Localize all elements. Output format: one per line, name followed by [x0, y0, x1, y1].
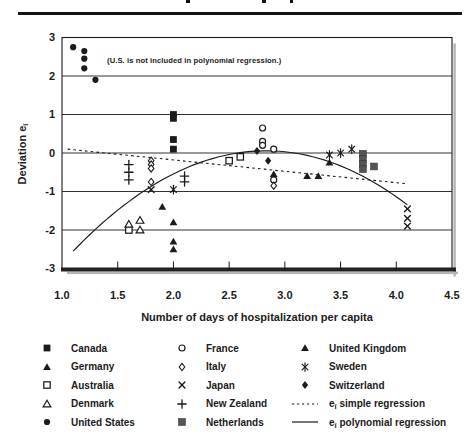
plus-marker-icon — [180, 178, 188, 186]
open-diamond-marker-icon — [271, 182, 277, 189]
simple-regression-legend-marker — [292, 397, 318, 411]
open-triangle-marker-icon — [136, 226, 144, 233]
legend-column: FranceItalyJapanNew ZealandNetherlands — [169, 339, 267, 432]
filled-circle-marker-icon — [70, 44, 76, 50]
legend-item-sweden: Sweden — [292, 358, 446, 377]
open-square-marker-icon — [237, 154, 243, 160]
x-tick-label: 3.0 — [277, 289, 292, 301]
series-canada — [170, 111, 177, 152]
x-cross-marker-icon — [179, 382, 185, 388]
germany-legend-marker — [34, 360, 60, 374]
gray-square-marker-icon — [371, 163, 378, 170]
plus-marker-icon — [178, 400, 186, 408]
filled-triangle-marker-icon — [170, 238, 178, 245]
scatter-chart: 1.01.52.02.53.03.54.04.53210-1-2-3 — [0, 0, 475, 336]
filled-diamond-marker-icon — [302, 381, 308, 389]
x-cross-marker-icon — [405, 223, 411, 229]
filled-circle-marker-icon — [92, 77, 98, 83]
y-tick-label: 3 — [49, 31, 55, 43]
open-circle-marker-icon — [179, 345, 185, 351]
legend-label: eî simple regression — [329, 398, 425, 409]
switzerland-legend-marker — [292, 378, 318, 392]
france-legend-marker — [169, 341, 195, 355]
new-zealand-legend-marker — [169, 397, 195, 411]
chart-note: (U.S. is not included in polynomial regr… — [107, 56, 281, 65]
open-square-marker-icon — [226, 158, 232, 164]
filled-triangle-marker-icon — [314, 172, 322, 179]
x-tick-label: 2.5 — [221, 289, 236, 301]
filled-square-marker-icon — [170, 146, 177, 153]
filled-triangle-marker-icon — [170, 245, 178, 252]
open-square-marker-icon — [44, 382, 50, 388]
legend-item-united-states: United States — [34, 413, 135, 432]
australia-legend-marker — [34, 378, 60, 392]
legend-column: United KingdomSwedenSwitzerlandeî simple… — [292, 339, 446, 432]
filled-circle-marker-icon — [44, 419, 50, 425]
x-axis-title: Number of days of hospitalization per ca… — [107, 311, 407, 323]
open-triangle-marker-icon — [43, 400, 51, 407]
polynomial-regression-legend-marker — [292, 415, 318, 429]
legend-label: Germany — [71, 361, 114, 372]
legend-item-netherlands: Netherlands — [169, 413, 267, 432]
filled-square-marker-icon — [170, 136, 177, 143]
legend-item-denmark: Denmark — [34, 395, 135, 414]
united-kingdom-legend-marker — [292, 341, 318, 355]
legend-item-italy: Italy — [169, 358, 267, 377]
legend-label: Italy — [206, 361, 226, 372]
x-tick-label: 1.5 — [110, 289, 125, 301]
filled-diamond-marker-icon — [254, 147, 260, 155]
x-tick-label: 1.0 — [54, 289, 69, 301]
x-tick-label: 2.0 — [166, 289, 181, 301]
legend-label: Switzerland — [329, 380, 385, 391]
gray-square-marker-icon — [359, 166, 366, 173]
y-axis-title: Deviation eî — [16, 93, 28, 215]
polynomial-regression-curve — [73, 151, 407, 251]
filled-diamond-marker-icon — [265, 157, 271, 165]
legend-label: Japan — [206, 380, 235, 391]
y-tick-label: 1 — [49, 108, 55, 120]
y-tick-label: -3 — [45, 262, 55, 274]
legend-item-japan: Japan — [169, 376, 267, 395]
legend-label: Netherlands — [206, 417, 264, 428]
filled-circle-marker-icon — [81, 65, 87, 71]
legend-label: eî polynomial regression — [329, 417, 446, 428]
open-triangle-marker-icon — [136, 217, 144, 224]
legend-label: United Kingdom — [329, 343, 406, 354]
filled-triangle-marker-icon — [270, 170, 278, 177]
star-marker-icon — [302, 362, 308, 371]
series-united-states — [70, 44, 98, 83]
legend-item-australia: Australia — [34, 376, 135, 395]
x-tick-label: 3.5 — [333, 289, 348, 301]
star-marker-icon — [349, 145, 355, 154]
y-tick-label: 0 — [49, 147, 55, 159]
open-square-marker-icon — [126, 227, 132, 233]
chart-legend: CanadaGermanyAustraliaDenmarkUnited Stat… — [0, 339, 475, 436]
x-tick-label: 4.5 — [444, 289, 459, 301]
plus-marker-icon — [125, 176, 133, 184]
legend-label: Canada — [71, 343, 107, 354]
filled-triangle-marker-icon — [301, 344, 309, 351]
filled-square-marker-icon — [170, 115, 177, 122]
legend-label: France — [206, 343, 239, 354]
legend-label: Australia — [71, 380, 114, 391]
open-circle-marker-icon — [260, 142, 266, 148]
legend-item-switzerland: Switzerland — [292, 376, 446, 395]
united-states-legend-marker — [34, 415, 60, 429]
y-axis-title-subscript: î — [21, 124, 30, 126]
series-japan — [148, 187, 410, 229]
legend-item-canada: Canada — [34, 339, 135, 358]
series-germany — [270, 159, 334, 179]
gray-square-marker-icon — [179, 419, 186, 426]
filled-triangle-marker-icon — [158, 203, 166, 210]
legend-label: Denmark — [71, 398, 114, 409]
filled-square-marker-icon — [44, 345, 51, 352]
y-tick-label: 2 — [49, 70, 55, 82]
x-cross-marker-icon — [405, 206, 411, 212]
italy-legend-marker — [169, 360, 195, 374]
open-circle-marker-icon — [271, 146, 277, 152]
netherlands-legend-marker — [169, 415, 195, 429]
legend-label: New Zealand — [206, 398, 267, 409]
sweden-legend-marker — [292, 360, 318, 374]
series-united-kingdom — [158, 203, 177, 252]
open-circle-marker-icon — [260, 125, 266, 131]
